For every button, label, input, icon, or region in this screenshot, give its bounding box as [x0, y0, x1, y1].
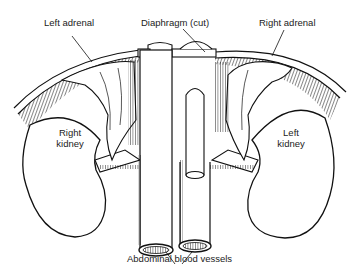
label-diaphragm: Diaphragm (cut): [141, 17, 209, 28]
label-left-kidney-line1: Left: [271, 127, 311, 138]
adrenal-kidney-diagram: Left adrenal Diaphragm (cut) Right adren…: [0, 0, 355, 270]
label-right-kidney: Right kidney: [50, 127, 90, 149]
label-left-kidney-line2: kidney: [271, 138, 311, 149]
label-left-kidney: Left kidney: [271, 127, 311, 149]
label-left-adrenal: Left adrenal: [44, 17, 94, 28]
label-right-kidney-line2: kidney: [50, 138, 90, 149]
label-abdominal-blood-vessels: Abdominal blood vessels: [127, 253, 232, 264]
label-right-kidney-line1: Right: [50, 127, 90, 138]
label-right-adrenal: Right adrenal: [259, 17, 316, 28]
